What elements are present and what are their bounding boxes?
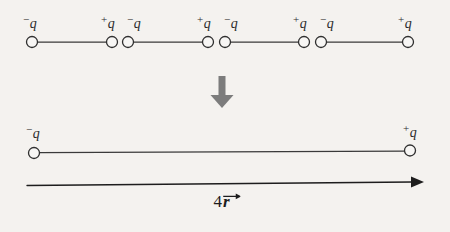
charge-node-positive — [299, 37, 310, 48]
charge-label-positive: +q — [197, 14, 211, 31]
charge-symbol: q — [33, 126, 40, 141]
charge-label-positive: +q — [403, 123, 417, 140]
arrow-head — [211, 95, 234, 108]
charge-node-positive — [405, 145, 416, 156]
charge-sign: − — [26, 123, 32, 135]
charge-sign: + — [398, 13, 404, 25]
charge-label-positive: +q — [398, 14, 412, 31]
charge-sign: − — [23, 13, 29, 25]
charge-label-negative: −q — [26, 124, 40, 141]
charge-node-positive — [403, 37, 414, 48]
charge-symbol: q — [405, 16, 412, 31]
charge-label-negative: −q — [127, 14, 141, 31]
charge-symbol: q — [231, 16, 238, 31]
charge-symbol: q — [30, 16, 37, 31]
charge-node-negative — [29, 148, 40, 159]
charge-node-negative — [27, 37, 38, 48]
dipole-chain-diagram: −q +q −q +q −q +q −q +q −q +q 4 r — [0, 0, 450, 232]
charge-sign: + — [403, 122, 409, 134]
measure-arrow-head — [411, 177, 424, 188]
measure-arrow-shaft — [27, 182, 412, 186]
bond-segment-long — [40, 151, 405, 153]
charge-sign: + — [101, 13, 107, 25]
charge-node-positive — [203, 37, 214, 48]
charge-symbol: q — [108, 16, 115, 31]
charge-symbol: q — [327, 16, 334, 31]
charge-node-negative — [220, 37, 231, 48]
separation-multiplier: 4 — [213, 192, 222, 211]
downward-transition-arrow — [211, 76, 234, 108]
charge-node-negative — [316, 37, 327, 48]
charge-sign: − — [224, 13, 230, 25]
charge-node-negative — [123, 37, 134, 48]
charge-node-positive — [107, 37, 118, 48]
charge-sign: + — [293, 13, 299, 25]
top-row-group — [27, 37, 414, 48]
separation-label: 4 r — [213, 193, 230, 210]
arrow-shaft — [219, 76, 226, 98]
charge-sign: − — [127, 13, 133, 25]
charge-label-negative: −q — [320, 14, 334, 31]
charge-label-negative: −q — [23, 14, 37, 31]
charge-symbol: q — [410, 125, 417, 140]
charge-symbol: q — [204, 16, 211, 31]
charge-symbol: q — [134, 16, 141, 31]
bottom-row-group — [29, 145, 416, 159]
charge-symbol: q — [300, 16, 307, 31]
charge-label-negative: −q — [224, 14, 238, 31]
separation-measure-arrow — [27, 177, 424, 188]
charge-label-positive: +q — [101, 14, 115, 31]
separation-symbol-text: r — [223, 192, 230, 211]
charge-sign: − — [320, 13, 326, 25]
charge-sign: + — [197, 13, 203, 25]
separation-vector-symbol: r — [222, 192, 231, 211]
charge-label-positive: +q — [293, 14, 307, 31]
